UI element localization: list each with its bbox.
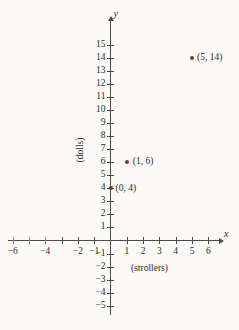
y-axis-tick	[107, 123, 114, 124]
data-point	[190, 56, 194, 60]
y-axis-tick	[107, 58, 114, 59]
y-axis-tick	[107, 162, 114, 163]
x-axis-tick	[127, 237, 128, 244]
y-axis-tick	[107, 254, 114, 255]
x-axis-tick-label: −1	[89, 247, 99, 257]
x-axis-tick	[208, 237, 209, 244]
y-axis-unit-label: (dolls)	[75, 127, 85, 173]
y-axis-tick-label: 6	[85, 157, 106, 167]
y-axis-tick	[107, 97, 114, 98]
data-point-label: (0, 4)	[116, 185, 137, 195]
y-axis-tick-label: −4	[85, 288, 106, 298]
y-axis-tick-label: −5	[85, 301, 106, 311]
y-axis-tick-label: 5	[85, 171, 106, 181]
data-point-label: (5, 14)	[197, 53, 222, 63]
data-point	[125, 160, 129, 164]
x-axis-name-label: x	[224, 228, 228, 239]
y-axis-tick-label: −2	[85, 262, 106, 272]
y-axis-tick-label: 9	[85, 118, 106, 128]
y-axis-tick	[107, 201, 114, 202]
y-axis-tick-label: 7	[85, 144, 106, 154]
y-axis-tick	[107, 280, 114, 281]
x-axis-tick	[159, 237, 160, 244]
x-axis-tick	[143, 237, 144, 244]
y-axis-tick	[107, 110, 114, 111]
x-axis-tick-label: 4	[173, 247, 178, 257]
coordinate-plane-chart: −5−4−3−2−1123456789101112131415−6−4−2−11…	[0, 0, 239, 330]
y-axis-tick-label: 14	[85, 53, 106, 63]
x-axis-tick	[29, 237, 30, 244]
x-axis-tick	[192, 237, 193, 244]
y-axis-tick-label: 12	[85, 79, 106, 89]
y-axis-tick-label: 4	[85, 184, 106, 194]
y-axis-tick	[107, 227, 114, 228]
y-axis-tick-label: 1	[85, 223, 106, 233]
y-axis-tick	[107, 45, 114, 46]
y-axis-tick-label: −3	[85, 275, 106, 285]
y-axis-tick-label: 13	[85, 66, 106, 76]
x-axis-tick-label: 2	[141, 247, 146, 257]
x-axis-tick-label: −6	[8, 247, 18, 257]
y-axis-tick	[107, 267, 114, 268]
y-axis-line	[110, 20, 111, 315]
y-axis-tick	[107, 84, 114, 85]
y-axis-tick	[107, 306, 114, 307]
x-axis-tick	[62, 237, 63, 244]
y-axis-tick-label: 10	[85, 105, 106, 115]
x-axis-line	[8, 240, 220, 241]
y-axis-tick-label: 3	[85, 197, 106, 207]
y-axis-tick	[107, 175, 114, 176]
y-axis-tick-label: 8	[85, 131, 106, 141]
y-axis-tick-label: 15	[85, 40, 106, 50]
x-axis-tick-label: 1	[124, 247, 129, 257]
x-axis-unit-label: (strollers)	[131, 263, 168, 273]
x-axis-tick	[13, 237, 14, 244]
y-axis-tick	[107, 293, 114, 294]
x-axis-tick	[176, 237, 177, 244]
x-axis-tick-label: 6	[206, 247, 211, 257]
y-axis-tick	[107, 149, 114, 150]
data-point-label: (1, 6)	[133, 157, 154, 167]
data-point	[109, 186, 113, 190]
y-axis-tick-label: 11	[85, 92, 106, 102]
y-axis-tick	[107, 71, 114, 72]
x-axis-tick	[94, 237, 95, 244]
x-axis-tick	[45, 237, 46, 244]
x-axis-tick-label: −4	[40, 247, 50, 257]
x-axis-tick	[78, 237, 79, 244]
y-axis-tick	[107, 214, 114, 215]
x-axis-tick-label: 5	[190, 247, 195, 257]
y-axis-tick	[107, 136, 114, 137]
y-axis-name-label: y	[114, 8, 118, 19]
x-axis-tick-label: 3	[157, 247, 162, 257]
y-axis-tick-label: 2	[85, 210, 106, 220]
x-axis-tick-label: −2	[73, 247, 83, 257]
